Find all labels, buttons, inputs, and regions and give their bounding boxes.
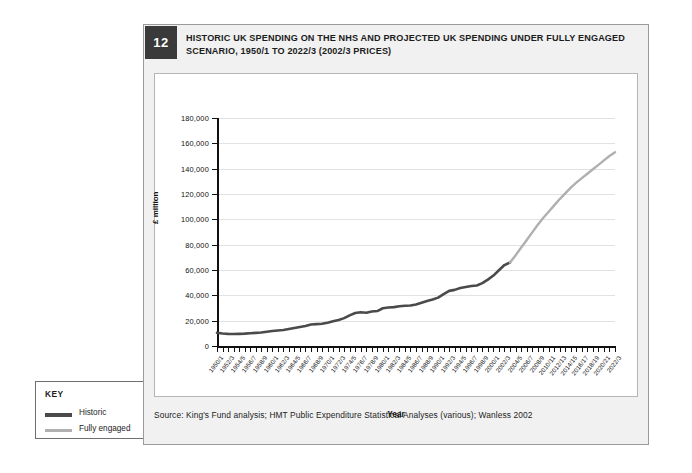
figure-number-badge: 12 bbox=[145, 26, 177, 59]
key-swatch-historic bbox=[45, 413, 72, 417]
plot-panel: £ million 020,00040,00060,00080,000100,0… bbox=[154, 73, 638, 397]
figure-header: 12 HISTORIC UK SPENDING ON THE NHS AND P… bbox=[144, 25, 648, 69]
figure-container: 12 HISTORIC UK SPENDING ON THE NHS AND P… bbox=[143, 24, 649, 445]
key-label-historic: Historic bbox=[79, 408, 106, 417]
series-line-historic bbox=[217, 263, 510, 334]
key-label-fully-engaged: Fully engaged bbox=[79, 424, 130, 433]
source-note: Source: King's Fund analysis; HMT Public… bbox=[154, 410, 638, 420]
chart-series-layer bbox=[155, 74, 639, 398]
figure-title: HISTORIC UK SPENDING ON THE NHS AND PROJ… bbox=[186, 32, 640, 58]
key-title: KEY bbox=[45, 389, 63, 399]
key-box: KEY Historic Fully engaged bbox=[35, 381, 148, 439]
key-swatch-fully-engaged bbox=[45, 429, 72, 432]
series-line-fully-engaged bbox=[510, 152, 615, 262]
